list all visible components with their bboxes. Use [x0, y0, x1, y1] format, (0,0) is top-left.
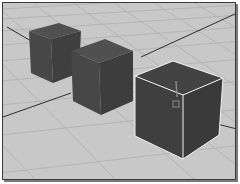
cube-2[interactable]: [71, 39, 133, 115]
viewport-3d[interactable]: [2, 2, 236, 180]
